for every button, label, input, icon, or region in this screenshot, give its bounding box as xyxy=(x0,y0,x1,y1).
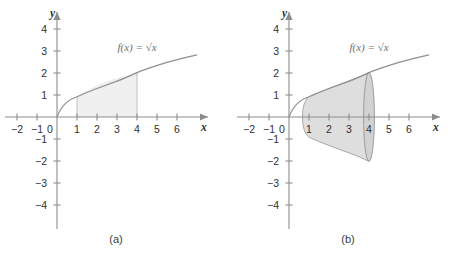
panel-b-plot: −2 −1 0 1 2 3 4 5 6 4 3 2 1 −1 −2 −3 −4 … xyxy=(232,0,464,253)
x-tick-label-4: 4 xyxy=(134,123,140,135)
x-tick-label--2: −2 xyxy=(11,123,23,135)
x-tick-label-6: 6 xyxy=(406,123,412,135)
y-tick-label--3: −3 xyxy=(267,177,279,189)
panel-a: −2 −1 0 1 2 3 4 5 6 4 3 2 1 −1 −2 −3 −4 … xyxy=(0,0,232,253)
x-axis-arrow-b xyxy=(432,113,440,120)
y-tick-label--1: −1 xyxy=(267,133,279,145)
x-tick-label-2: 2 xyxy=(94,123,100,135)
y-tick-label--4: −4 xyxy=(267,199,279,211)
x-tick-label-0: 0 xyxy=(47,123,53,135)
x-tick-label-3: 3 xyxy=(346,123,352,135)
panel-a-plot: −2 −1 0 1 2 3 4 5 6 4 3 2 1 −1 −2 −3 −4 … xyxy=(0,0,232,253)
x-tick-label-6: 6 xyxy=(174,123,180,135)
x-axis-arrow-a xyxy=(200,113,208,120)
x-tick-label-0: 0 xyxy=(279,123,285,135)
function-label-a: f(x) = √x xyxy=(117,41,156,54)
figure-root: −2 −1 0 1 2 3 4 5 6 4 3 2 1 −1 −2 −3 −4 … xyxy=(0,0,464,253)
y-tick-label-3: 3 xyxy=(41,45,47,57)
y-tick-label-2: 2 xyxy=(273,67,279,79)
y-tick-label-2: 2 xyxy=(41,67,47,79)
x-tick-label-5: 5 xyxy=(386,123,392,135)
x-axis-label-a: x xyxy=(200,121,207,133)
y-tick-label--2: −2 xyxy=(267,155,279,167)
y-axis-label-a: y xyxy=(48,7,56,20)
y-tick-label--3: −3 xyxy=(35,177,47,189)
y-tick-label-1: 1 xyxy=(273,89,279,101)
y-tick-label-3: 3 xyxy=(273,45,279,57)
y-tick-label--1: −1 xyxy=(35,133,47,145)
x-tick-label-3: 3 xyxy=(114,123,120,135)
panel-caption-b: (b) xyxy=(232,233,464,245)
x-tick-label-1: 1 xyxy=(74,123,80,135)
panel-b: −2 −1 0 1 2 3 4 5 6 4 3 2 1 −1 −2 −3 −4 … xyxy=(232,0,464,253)
x-tick-label--2: −2 xyxy=(243,123,255,135)
x-tick-label-5: 5 xyxy=(154,123,160,135)
y-axis-label-b: y xyxy=(280,7,288,20)
panel-caption-a: (a) xyxy=(0,233,232,245)
shaded-region-a xyxy=(77,73,137,117)
y-tick-label--2: −2 xyxy=(35,155,47,167)
x-tick-label-4: 4 xyxy=(366,123,372,135)
y-tick-label-1: 1 xyxy=(41,89,47,101)
y-tick-label-4: 4 xyxy=(41,23,47,35)
y-tick-label-4: 4 xyxy=(273,23,279,35)
y-tick-label--4: −4 xyxy=(35,199,47,211)
x-axis-label-b: x xyxy=(432,121,439,133)
x-tick-label-1: 1 xyxy=(306,123,312,135)
x-tick-label-2: 2 xyxy=(326,123,332,135)
function-label-b: f(x) = √x xyxy=(349,41,388,54)
